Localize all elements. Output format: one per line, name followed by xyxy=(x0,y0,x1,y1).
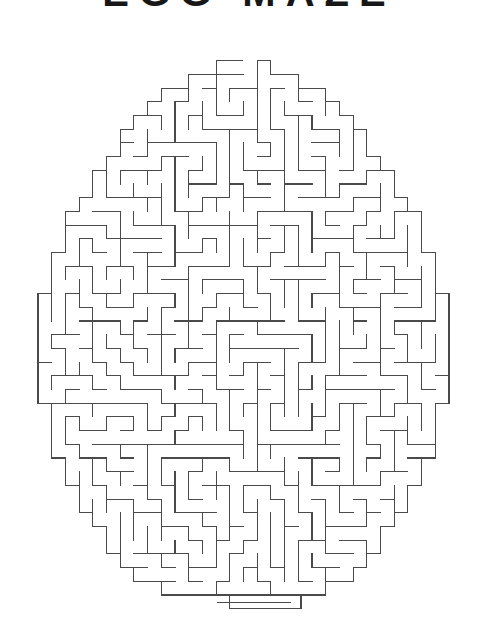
puzzle-page: EGG MAZE Egg Maze xyxy=(0,0,498,640)
maze-walls xyxy=(38,61,449,609)
egg-maze-graphic xyxy=(0,0,498,640)
maze-container xyxy=(0,0,498,640)
maze-wall-path xyxy=(38,61,449,609)
